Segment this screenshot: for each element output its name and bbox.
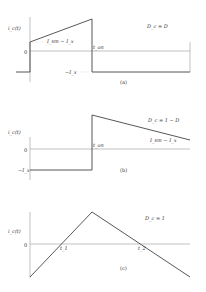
panel-c-condition: D_c = 1: [145, 216, 165, 221]
panel-a-condition: D_c = D: [147, 24, 168, 29]
panel-a-level-label: I_sm − I_x: [47, 39, 73, 44]
panel-c-zero-label: 0: [24, 243, 27, 248]
panel-b-ton-label: t_on: [93, 143, 104, 148]
panel-b-caption: (b): [120, 168, 127, 173]
panel-b-level-label: I_sm − I_x: [150, 138, 176, 143]
panel-b-neg-label: −I_x: [18, 168, 29, 173]
panel-b-zero-label: 0: [24, 148, 27, 153]
panel-a-ton-label: t_on: [93, 45, 104, 50]
panel-c-y-label: i_c(t): [8, 229, 21, 234]
panel-a-y-label: i_c(t): [8, 26, 21, 31]
panel-c-t1-label: t_1: [60, 246, 68, 251]
panel-b-condition: D_c = 1 − D: [148, 118, 179, 123]
panel-a-neg-label: −I_x: [65, 70, 76, 75]
panel-c-caption: (c): [120, 266, 127, 271]
panel-a-zero-label: 0: [24, 50, 27, 55]
panel-c-t2-label: t_2: [138, 246, 146, 251]
panel-b-y-label: i_c(t): [8, 130, 21, 135]
panel-a-caption: (a): [120, 80, 127, 85]
